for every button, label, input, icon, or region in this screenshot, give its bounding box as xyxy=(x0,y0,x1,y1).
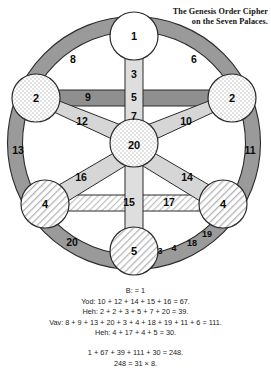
edge-label-arc-bottom-left: 20 xyxy=(66,236,78,248)
caption-line-1: Yod: 10 + 12 + 14 + 15 + 16 = 67. xyxy=(0,297,271,308)
node-lower-left-label: 4 xyxy=(42,198,49,210)
edge-label-arc-top-left: 8 xyxy=(70,53,76,65)
edge-label-diag-lower-left: 16 xyxy=(75,171,87,183)
edge-label-diag-upper-right: 10 xyxy=(180,115,192,127)
node-center[interactable]: 20 xyxy=(110,119,158,167)
edge-label-spoke-7: 7 xyxy=(131,110,137,122)
node-upper-right-label: 2 xyxy=(229,92,235,104)
edge-label-arc-br-1: 3 xyxy=(157,246,162,256)
node-upper-right[interactable]: 2 xyxy=(208,74,256,122)
node-lower-right-label: 4 xyxy=(220,198,227,210)
caption-line-2: Heh: 2 + 2 + 3 + 5 + 7 + 20 = 39. xyxy=(0,307,271,318)
node-bottom[interactable]: 5 xyxy=(110,227,158,275)
edge-label-diag-lower-right: 14 xyxy=(181,171,193,183)
edge-label-bar-upper-left: 9 xyxy=(85,91,91,103)
node-center-label: 20 xyxy=(128,139,140,151)
caption-line-0: B: = 1 xyxy=(0,286,271,297)
edge-label-bar-mid-right: 17 xyxy=(163,196,175,208)
caption-line-3: Vav: 8 + 9 + 13 + 20 + 3 + 4 + 18 + 19 +… xyxy=(0,318,271,329)
caption-block: B: = 1 Yod: 10 + 12 + 14 + 15 + 16 = 67.… xyxy=(0,286,271,369)
caption-line-4: Heh: 4 + 17 + 4 + 5 = 30. xyxy=(0,328,271,339)
node-upper-left[interactable]: 2 xyxy=(12,74,60,122)
caption-total-1: 248 = 31 × 8. xyxy=(0,359,271,370)
node-top-label: 1 xyxy=(131,30,137,42)
caption-spacer xyxy=(0,339,271,348)
edge-label-spoke-3: 3 xyxy=(131,68,137,80)
edge-label-spoke-5: 5 xyxy=(131,91,137,103)
figure-root: The Genesis Order Cipher on the Seven Pa… xyxy=(0,0,271,377)
node-top[interactable]: 1 xyxy=(110,12,158,60)
edge-label-arc-br-4: 19 xyxy=(202,229,212,239)
node-upper-left-label: 2 xyxy=(33,92,39,104)
edge-label-arc-br-2: 4 xyxy=(171,243,176,253)
edge-label-arc-br-3: 18 xyxy=(187,238,197,248)
node-bottom-label: 5 xyxy=(131,245,137,257)
edge-label-arc-mid-right: 11 xyxy=(244,144,255,156)
seven-palaces-wheel: 1 2 2 20 4 xyxy=(0,0,271,283)
node-lower-left[interactable]: 4 xyxy=(21,180,69,228)
edge-label-arc-top-right: 6 xyxy=(191,53,197,65)
edge-label-diag-upper-left: 12 xyxy=(76,115,88,127)
edge-label-arc-mid-left: 13 xyxy=(12,144,24,156)
caption-total-0: 1 + 67 + 39 + 111 + 30 = 248. xyxy=(0,348,271,359)
node-lower-right[interactable]: 4 xyxy=(199,180,247,228)
edge-label-bar-mid-left: 15 xyxy=(123,196,135,208)
